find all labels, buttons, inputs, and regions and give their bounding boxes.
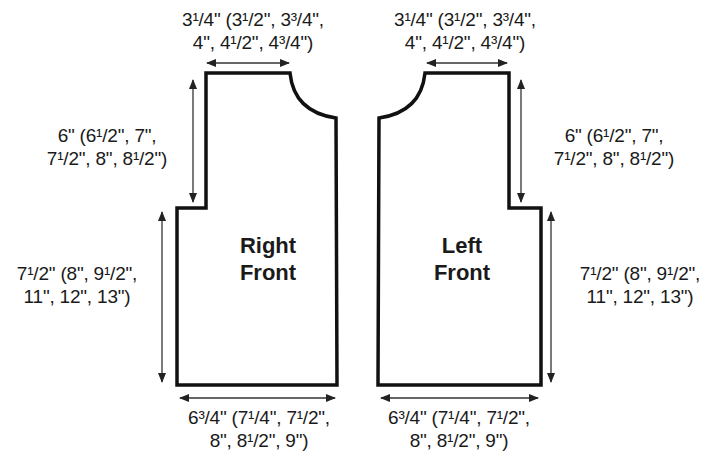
- label-line: 7¹/2" (8", 9¹/2",: [562, 262, 718, 285]
- label-line: 7¹/2" (8", 9¹/2",: [2, 262, 152, 285]
- left-front-length-label: 7¹/2" (8", 9¹/2", 11", 12", 13"): [562, 262, 718, 308]
- right-front-outline: [177, 73, 337, 385]
- label-line: 3¹/4" (3¹/2", 3³/4",: [370, 8, 560, 31]
- label-line: 6³/4" (7¹/4", 7¹/2",: [364, 406, 554, 429]
- label-line: 7¹/2", 8", 8¹/2"): [22, 147, 192, 170]
- left-front-armhole-label: 6" (6¹/2", 7", 7¹/2", 8", 8¹/2"): [528, 124, 700, 170]
- schematic-drawing: [0, 0, 718, 463]
- right-front-armhole-label: 6" (6¹/2", 7", 7¹/2", 8", 8¹/2"): [22, 124, 192, 170]
- piece-title-line: Right: [218, 232, 318, 259]
- label-line: 6" (6¹/2", 7",: [22, 124, 192, 147]
- label-line: 6" (6¹/2", 7",: [528, 124, 700, 147]
- left-front-shoulder-label: 3¹/4" (3¹/2", 3³/4", 4", 4¹/2", 4³/4"): [370, 8, 560, 54]
- piece-title-line: Front: [218, 259, 318, 286]
- piece-title-line: Front: [412, 259, 512, 286]
- left-front-title: Left Front: [412, 232, 512, 286]
- left-front-outline: [378, 73, 541, 385]
- label-line: 3¹/4" (3¹/2", 3³/4",: [158, 8, 348, 31]
- right-front-shoulder-label: 3¹/4" (3¹/2", 3³/4", 4", 4¹/2", 4³/4"): [158, 8, 348, 54]
- label-line: 8", 8¹/2", 9"): [364, 429, 554, 452]
- right-front-title: Right Front: [218, 232, 318, 286]
- right-front-length-label: 7¹/2" (8", 9¹/2", 11", 12", 13"): [2, 262, 152, 308]
- right-front-bottom-label: 6³/4" (7¹/4", 7¹/2", 8", 8¹/2", 9"): [164, 406, 354, 452]
- label-line: 8", 8¹/2", 9"): [164, 429, 354, 452]
- label-line: 4", 4¹/2", 4³/4"): [370, 31, 560, 54]
- piece-title-line: Left: [412, 232, 512, 259]
- label-line: 7¹/2", 8", 8¹/2"): [528, 147, 700, 170]
- left-front-bottom-label: 6³/4" (7¹/4", 7¹/2", 8", 8¹/2", 9"): [364, 406, 554, 452]
- label-line: 6³/4" (7¹/4", 7¹/2",: [164, 406, 354, 429]
- label-line: 11", 12", 13"): [2, 285, 152, 308]
- label-line: 4", 4¹/2", 4³/4"): [158, 31, 348, 54]
- label-line: 11", 12", 13"): [562, 285, 718, 308]
